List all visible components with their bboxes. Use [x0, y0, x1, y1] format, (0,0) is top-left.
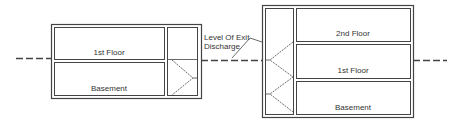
right-floor-label-basement: Basement	[296, 103, 410, 112]
left-floor-label-1st: 1st Floor	[54, 48, 164, 57]
right-floor-label-2nd: 2nd Floor	[296, 29, 410, 38]
left-floor-label-basement: Basement	[54, 84, 164, 93]
callout-line-2: Discharge	[204, 42, 249, 51]
left-stair-shaft	[168, 28, 198, 96]
right-floor-label-1st: 1st Floor	[296, 66, 410, 75]
callout-line-1: Level Of Exit	[204, 33, 249, 42]
left-stair-zigzag	[172, 60, 193, 95]
level-of-exit-discharge-label: Level Of Exit Discharge	[204, 33, 249, 51]
right-stair-shaft	[266, 9, 294, 115]
right-stair-zigzag	[270, 42, 293, 112]
right-building-outline	[263, 6, 414, 118]
